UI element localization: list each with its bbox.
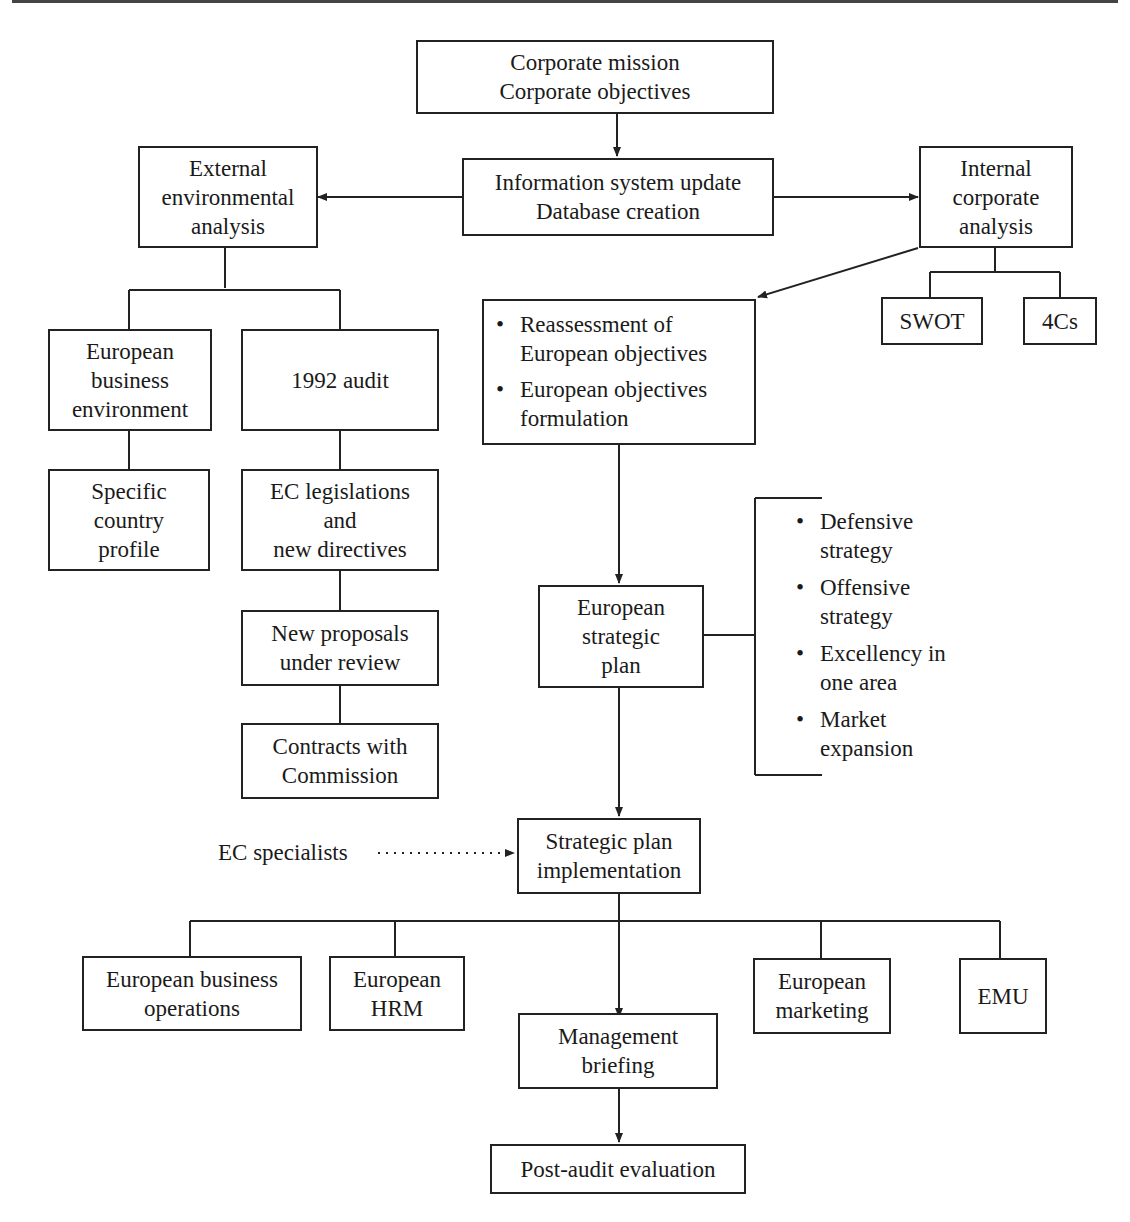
node-line: plan xyxy=(601,651,641,680)
european-business-env-box: European business environment xyxy=(48,329,212,431)
management-briefing-box: Management briefing xyxy=(518,1013,718,1089)
item-line: strategy xyxy=(820,536,913,565)
objective-item: • Reassessment of European objectives xyxy=(496,310,754,368)
emu-box: EMU xyxy=(959,958,1047,1034)
bullet-icon: • xyxy=(796,705,820,763)
strategy-options-list: • Defensive strategy • Offensive strateg… xyxy=(796,507,946,770)
node-line: briefing xyxy=(582,1051,655,1080)
audit-1992-box: 1992 audit xyxy=(241,329,439,431)
node-line: 1992 audit xyxy=(291,366,389,395)
node-line: Strategic plan xyxy=(545,827,672,856)
strategy-option: • Offensive strategy xyxy=(796,573,946,631)
node-line: under review xyxy=(280,648,401,677)
node-line: Information system update xyxy=(495,168,742,197)
node-line: Internal xyxy=(960,154,1032,183)
node-line: European xyxy=(86,337,174,366)
node-line: European business xyxy=(106,965,278,994)
bullet-icon: • xyxy=(496,310,520,368)
item-line: Excellency in xyxy=(820,639,946,668)
node-line: HRM xyxy=(371,994,423,1023)
node-line: European xyxy=(353,965,441,994)
internal-analysis-box: Internal corporate analysis xyxy=(919,146,1073,248)
bullet-icon: • xyxy=(796,573,820,631)
node-line: Specific xyxy=(91,477,166,506)
four-cs-box: 4Cs xyxy=(1023,297,1097,345)
node-line: business xyxy=(91,366,169,395)
node-line: environment xyxy=(72,395,188,424)
item-line: strategy xyxy=(820,602,910,631)
node-line: marketing xyxy=(775,996,868,1025)
item-line: Defensive xyxy=(820,507,913,536)
node-line: country xyxy=(94,506,164,535)
node-line: Corporate objectives xyxy=(500,77,691,106)
item-line: Reassessment of xyxy=(520,310,707,339)
bullet-icon: • xyxy=(796,507,820,565)
item-line: European objectives xyxy=(520,375,707,404)
swot-box: SWOT xyxy=(881,297,983,345)
item-line: one area xyxy=(820,668,946,697)
node-line: Contracts with xyxy=(273,732,408,761)
corporate-mission-box: Corporate mission Corporate objectives xyxy=(416,40,774,114)
info-system-box: Information system update Database creat… xyxy=(462,158,774,236)
node-line: Management xyxy=(558,1022,678,1051)
objectives-box: • Reassessment of European objectives • … xyxy=(482,299,756,445)
node-line: SWOT xyxy=(899,307,964,336)
country-profile-box: Specific country profile xyxy=(48,469,210,571)
node-line: New proposals xyxy=(271,619,408,648)
item-line: formulation xyxy=(520,404,707,433)
business-operations-box: European business operations xyxy=(82,956,302,1031)
strategy-option: • Market expansion xyxy=(796,705,946,763)
new-proposals-box: New proposals under review xyxy=(241,610,439,686)
objective-item: • European objectives formulation xyxy=(496,375,754,433)
item-line: Market xyxy=(820,705,913,734)
external-analysis-box: External environmental analysis xyxy=(138,146,318,248)
item-line: expansion xyxy=(820,734,913,763)
bullet-icon: • xyxy=(496,375,520,433)
strategic-plan-box: European strategic plan xyxy=(538,585,704,688)
node-line: corporate xyxy=(953,183,1040,212)
node-line: European xyxy=(778,967,866,996)
strategy-option: • Excellency in one area xyxy=(796,639,946,697)
node-line: implementation xyxy=(537,856,681,885)
node-line: 4Cs xyxy=(1042,307,1078,336)
node-line: strategic xyxy=(582,622,660,651)
node-line: Database creation xyxy=(536,197,700,226)
contracts-commission-box: Contracts with Commission xyxy=(241,723,439,799)
node-line: External xyxy=(189,154,267,183)
node-line: analysis xyxy=(191,212,265,241)
node-line: environmental xyxy=(162,183,295,212)
node-line: operations xyxy=(144,994,240,1023)
post-audit-box: Post-audit evaluation xyxy=(490,1144,746,1194)
node-line: and xyxy=(323,506,356,535)
plan-implementation-box: Strategic plan implementation xyxy=(517,818,701,894)
bullet-icon: • xyxy=(796,639,820,697)
node-line: Corporate mission xyxy=(510,48,679,77)
node-line: Post-audit evaluation xyxy=(521,1155,716,1184)
hrm-box: European HRM xyxy=(329,956,465,1031)
node-line: EC legislations xyxy=(270,477,410,506)
node-line: Commission xyxy=(282,761,398,790)
strategy-option: • Defensive strategy xyxy=(796,507,946,565)
node-line: analysis xyxy=(959,212,1033,241)
item-line: Offensive xyxy=(820,573,910,602)
node-line: new directives xyxy=(273,535,406,564)
node-line: EMU xyxy=(977,982,1028,1011)
ec-legislations-box: EC legislations and new directives xyxy=(241,469,439,571)
node-line: European xyxy=(577,593,665,622)
marketing-box: European marketing xyxy=(753,958,891,1034)
item-line: European objectives xyxy=(520,339,707,368)
ec-specialists-label: EC specialists xyxy=(218,838,348,867)
node-line: profile xyxy=(98,535,159,564)
